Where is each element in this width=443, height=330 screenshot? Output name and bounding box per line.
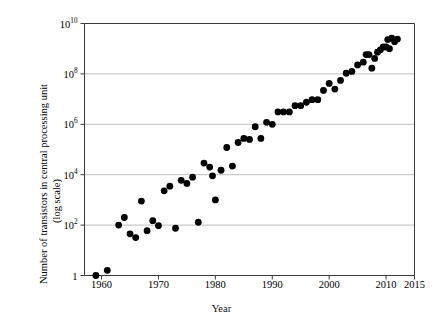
- y-tick-label: 108: [40, 68, 78, 79]
- data-point: [235, 139, 242, 146]
- data-point: [257, 135, 264, 142]
- x-tick-label: 2010: [376, 279, 397, 290]
- y-axis-title-line1: Number of transistors in central process…: [38, 84, 49, 284]
- data-point: [138, 198, 145, 205]
- x-axis-title: Year: [0, 303, 443, 314]
- data-point: [368, 65, 375, 72]
- data-point: [155, 222, 162, 229]
- data-point: [92, 272, 99, 279]
- y-tick-label: 104: [40, 169, 78, 180]
- data-point: [149, 217, 156, 224]
- data-point: [269, 121, 276, 128]
- data-point: [229, 163, 236, 170]
- data-point: [360, 59, 367, 66]
- x-tick-label: 2000: [319, 279, 340, 290]
- y-axis-title: Number of transistors in central process…: [0, 0, 60, 300]
- y-tick-label: 102: [40, 220, 78, 231]
- x-tick-label: 1960: [91, 279, 112, 290]
- data-point: [201, 160, 208, 167]
- data-point: [132, 234, 139, 241]
- y-tick-label: 1010: [40, 18, 78, 29]
- data-point: [394, 36, 401, 43]
- data-point: [195, 219, 202, 226]
- data-point: [240, 135, 247, 142]
- data-point: [144, 227, 151, 234]
- data-point: [386, 45, 393, 52]
- data-point: [218, 167, 225, 174]
- data-point: [104, 267, 111, 274]
- data-point: [184, 180, 191, 187]
- data-point: [326, 80, 333, 87]
- data-point: [371, 55, 378, 62]
- data-point: [246, 136, 253, 143]
- data-points-group: [92, 35, 400, 279]
- y-axis-title-line2: (log scale): [51, 179, 62, 223]
- data-point: [115, 222, 122, 229]
- x-tick-label: 2015: [404, 279, 425, 290]
- y-tick-label: 1: [40, 270, 78, 281]
- data-point: [121, 214, 128, 221]
- data-point: [320, 87, 327, 94]
- data-point: [212, 197, 219, 204]
- data-point: [349, 68, 356, 75]
- data-point: [166, 183, 173, 190]
- data-point: [297, 102, 304, 109]
- data-point: [127, 230, 134, 237]
- data-point: [189, 174, 196, 181]
- data-point: [252, 123, 259, 130]
- data-point: [223, 144, 230, 151]
- x-tick-label: 1990: [262, 279, 283, 290]
- chart-figure: Number of transistors in central process…: [0, 0, 443, 330]
- x-tick-label: 1980: [205, 279, 226, 290]
- data-point: [314, 96, 321, 103]
- data-point: [337, 77, 344, 84]
- data-point: [206, 164, 213, 171]
- data-point: [331, 86, 338, 93]
- data-point: [286, 109, 293, 116]
- data-point: [161, 187, 168, 194]
- data-point: [366, 51, 373, 58]
- y-tick-label: 106: [40, 119, 78, 130]
- x-tick-label: 1970: [148, 279, 169, 290]
- data-point: [172, 225, 179, 232]
- data-point: [209, 172, 216, 179]
